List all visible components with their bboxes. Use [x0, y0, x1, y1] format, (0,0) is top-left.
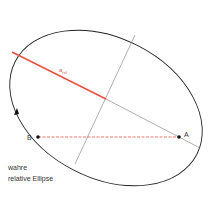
minor-axis — [75, 35, 135, 164]
point-a-label: A — [184, 131, 189, 138]
caption-line-2: relative Ellipse — [8, 175, 53, 182]
semi-major-label: arel — [59, 67, 67, 75]
point-b — [36, 135, 40, 139]
caption-line-1: wahre — [8, 164, 27, 171]
point-a — [177, 135, 181, 139]
semi-major-subscript: rel — [62, 70, 66, 75]
relative-ellipse — [0, 0, 222, 197]
semi-major-axis — [12, 52, 106, 99]
ellipse-diagram — [0, 0, 222, 197]
point-b-label: B — [27, 134, 32, 141]
major-axis — [106, 99, 200, 148]
